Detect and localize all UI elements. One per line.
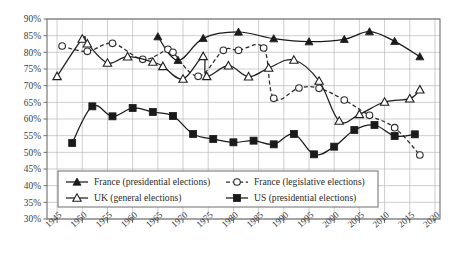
data-point-marker bbox=[355, 110, 363, 118]
data-point-marker bbox=[366, 112, 373, 119]
data-point-marker bbox=[290, 131, 297, 138]
data-point-marker bbox=[351, 127, 358, 134]
data-point-marker bbox=[190, 131, 197, 138]
data-point-marker bbox=[170, 49, 177, 56]
y-tick-label: 45% bbox=[24, 164, 41, 174]
y-tick-label: 75% bbox=[24, 64, 41, 74]
data-point-marker bbox=[371, 122, 378, 129]
data-point-marker bbox=[416, 85, 424, 93]
x-tick-label: 1975 bbox=[194, 209, 215, 229]
data-point-marker bbox=[59, 43, 66, 50]
data-point-marker bbox=[89, 103, 96, 110]
legend-label: US (presidential elections) bbox=[254, 192, 356, 204]
data-point-marker bbox=[341, 97, 348, 104]
x-tick-label: 2020 bbox=[421, 209, 442, 229]
data-point-marker bbox=[270, 141, 277, 148]
voter-turnout-line-chart: 30%35%40%45%50%55%60%65%70%75%80%85%90%1… bbox=[0, 0, 461, 264]
data-point-marker bbox=[149, 109, 156, 116]
legend: France (presidential elections)France (l… bbox=[58, 171, 378, 207]
data-point-marker bbox=[391, 124, 398, 131]
y-tick-label: 30% bbox=[24, 214, 41, 224]
data-point-marker bbox=[210, 136, 217, 143]
y-tick-label: 60% bbox=[24, 114, 41, 124]
data-point-marker bbox=[270, 95, 277, 102]
data-point-marker bbox=[220, 47, 227, 54]
data-point-marker bbox=[169, 113, 176, 120]
data-point-marker bbox=[416, 53, 424, 60]
x-tick-label: 2010 bbox=[371, 209, 392, 229]
x-tick-label: 1965 bbox=[144, 209, 165, 229]
legend-label: France (presidential elections) bbox=[94, 176, 210, 188]
data-point-marker bbox=[129, 105, 136, 112]
y-tick-label: 35% bbox=[24, 198, 41, 208]
data-point-marker bbox=[296, 85, 303, 92]
data-point-marker bbox=[234, 179, 241, 186]
chart-container: 30%35%40%45%50%55%60%65%70%75%80%85%90%1… bbox=[0, 0, 461, 264]
x-tick-label: 1990 bbox=[270, 209, 291, 229]
data-point-marker bbox=[391, 133, 398, 140]
y-tick-label: 50% bbox=[24, 148, 41, 158]
x-tick-label: 1995 bbox=[295, 209, 316, 229]
data-point-marker bbox=[230, 139, 237, 146]
data-point-marker bbox=[316, 85, 323, 92]
series-0 bbox=[154, 28, 424, 64]
data-point-marker bbox=[199, 52, 207, 60]
data-point-marker bbox=[417, 152, 424, 159]
y-tick-label: 55% bbox=[24, 131, 41, 141]
data-point-marker bbox=[159, 62, 167, 69]
data-point-marker bbox=[84, 48, 91, 55]
data-point-marker bbox=[260, 45, 267, 52]
y-tick-label: 90% bbox=[24, 14, 41, 24]
data-point-marker bbox=[235, 47, 242, 54]
x-tick-label: 2005 bbox=[346, 209, 367, 229]
x-tick-label: 1955 bbox=[94, 209, 115, 229]
data-point-marker bbox=[109, 40, 116, 47]
data-point-marker bbox=[53, 72, 61, 80]
data-point-marker bbox=[234, 195, 241, 202]
x-tick-label: 1980 bbox=[220, 209, 241, 229]
data-point-marker bbox=[331, 143, 338, 150]
data-point-marker bbox=[411, 131, 418, 138]
x-tick-label: 2015 bbox=[396, 209, 417, 229]
x-tick-label: 1945 bbox=[43, 209, 64, 229]
data-point-marker bbox=[103, 59, 111, 67]
legend-label: UK (general elections) bbox=[94, 192, 181, 204]
x-tick-label: 1950 bbox=[68, 209, 89, 229]
y-tick-label: 85% bbox=[24, 31, 41, 41]
data-point-marker bbox=[311, 151, 318, 158]
y-tick-label: 65% bbox=[24, 98, 41, 108]
y-tick-label: 80% bbox=[24, 48, 41, 58]
series-line bbox=[62, 43, 420, 155]
data-point-marker bbox=[109, 113, 116, 120]
data-point-marker bbox=[250, 137, 257, 144]
x-tick-label: 1960 bbox=[119, 209, 140, 229]
data-point-marker bbox=[154, 33, 162, 40]
legend-label: France (legislative elections) bbox=[254, 176, 365, 188]
data-point-marker bbox=[406, 94, 414, 102]
y-tick-label: 40% bbox=[24, 181, 41, 191]
data-point-marker bbox=[69, 140, 76, 147]
x-tick-label: 2000 bbox=[320, 209, 341, 229]
x-tick-label: 1985 bbox=[245, 209, 266, 229]
series-1 bbox=[59, 40, 423, 158]
data-point-marker bbox=[264, 64, 272, 72]
y-tick-label: 70% bbox=[24, 81, 41, 91]
data-point-marker bbox=[224, 61, 232, 69]
data-point-marker bbox=[195, 73, 202, 80]
data-point-marker bbox=[391, 37, 399, 44]
x-tick-label: 1970 bbox=[169, 209, 190, 229]
